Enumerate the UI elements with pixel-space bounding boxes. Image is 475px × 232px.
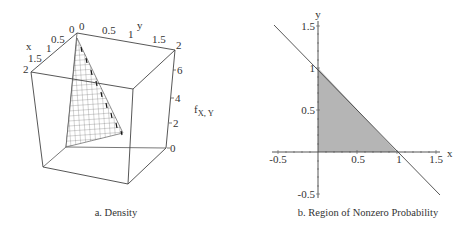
y-tick-0: 0: [79, 20, 85, 32]
x-tick-2: 2: [23, 63, 29, 75]
z-axis-label: fX, Y: [194, 103, 214, 118]
x-tick-0-5: 0.5: [51, 33, 65, 45]
y-tick-0-5: 0.5: [102, 24, 116, 36]
x-tick-1: 1: [46, 42, 52, 54]
x-tick-0: 0: [69, 23, 75, 35]
region-plot-2d: -0.5 0.5 1 1.5 x y 1.5 1 0.5 -0.5 b. Reg…: [269, 8, 453, 218]
z-tick-2: 2: [173, 117, 179, 129]
figure: x 0 0.5 1 1.5 2 0 0.5 1 y 1.5 2 0 2 4 6 …: [0, 0, 475, 232]
y-tick-2: 2: [176, 39, 182, 51]
x-tick-0-5: 0.5: [351, 153, 365, 165]
z-tick-4: 4: [175, 92, 181, 104]
y-axis-ticks: [316, 26, 320, 194]
x-axis-label: x: [447, 147, 453, 159]
z-axis-ticks: [167, 70, 176, 148]
x-tick-1-5: 1.5: [28, 52, 42, 64]
y-tick-1: 1: [128, 28, 134, 40]
z-axis-label-sub: X, Y: [198, 108, 214, 118]
y-tick-neg-0-5: -0.5: [298, 188, 316, 200]
y-tick-1-5: 1.5: [152, 33, 166, 45]
boundary-line: [274, 25, 440, 195]
y-axis-label: y: [315, 8, 321, 20]
caption-region: b. Region of Nonzero Probability: [298, 207, 439, 218]
y-tick-1-5: 1.5: [301, 20, 315, 32]
y-axis-label: y: [137, 19, 143, 31]
x-axis-label: x: [26, 40, 32, 52]
y-tick-1: 1: [310, 62, 316, 74]
z-tick-0: 0: [170, 142, 176, 154]
x-tick-1-5: 1.5: [429, 153, 443, 165]
x-tick-1: 1: [396, 153, 402, 165]
y-tick-0-5: 0.5: [301, 104, 315, 116]
caption-density: a. Density: [95, 207, 138, 218]
x-tick-neg-0-5: -0.5: [269, 153, 287, 165]
density-plot-3d: x 0 0.5 1 1.5 2 0 0.5 1 y 1.5 2 0 2 4 6 …: [23, 19, 214, 218]
z-tick-6: 6: [177, 64, 183, 76]
